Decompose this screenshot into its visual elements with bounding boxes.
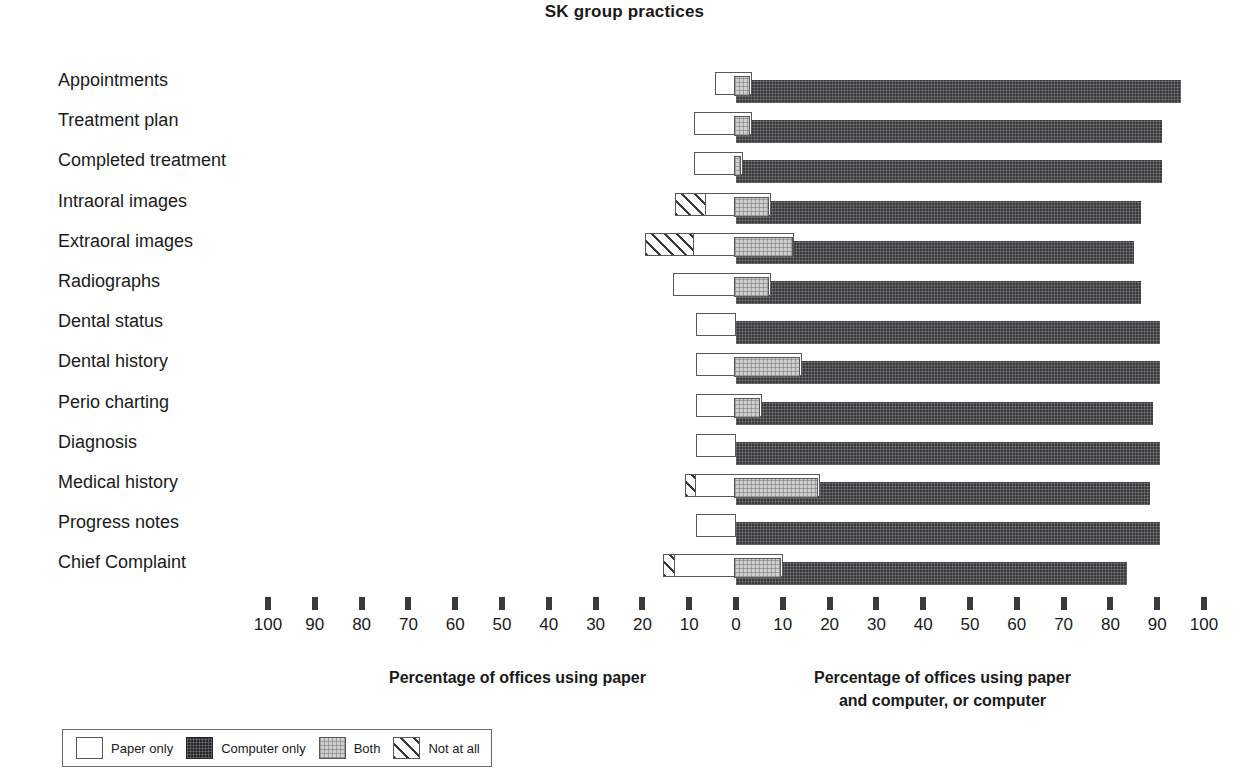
axis-tick [359, 597, 365, 610]
axis-tick-label: 20 [807, 615, 853, 635]
right-axis-caption-line2: and computer, or computer [770, 689, 1115, 712]
bar-computer-only [736, 120, 1162, 143]
bar-both [734, 197, 769, 217]
legend-item-paper-only: Paper only [76, 737, 173, 759]
legend-item-computer-only: Computer only [186, 737, 306, 759]
bar-not-at-all [645, 233, 694, 256]
axis-tick [686, 597, 692, 610]
axis-tick-label: 90 [1134, 615, 1180, 635]
bar-paper-only [696, 313, 736, 336]
right-axis-caption: Percentage of offices using paper and co… [770, 666, 1115, 712]
category-label: Dental status [58, 311, 163, 332]
axis-tick [1014, 597, 1020, 610]
axis-tick-label: 80 [339, 615, 385, 635]
axis-tick-label: 40 [526, 615, 572, 635]
axis-tick-label: 60 [432, 615, 478, 635]
bar-both [734, 398, 760, 418]
axis-tick [312, 597, 318, 610]
axis-tick [1201, 597, 1207, 610]
axis-tick-label: 0 [713, 615, 759, 635]
legend-label-both: Both [354, 741, 381, 756]
axis-tick-label: 10 [666, 615, 712, 635]
bar-not-at-all [685, 474, 697, 497]
bar-both [734, 237, 793, 257]
category-label: Chief Complaint [58, 552, 186, 573]
bar-not-at-all [675, 193, 705, 216]
category-label: Treatment plan [58, 110, 178, 131]
bar-paper-only [696, 434, 736, 457]
both-swatch [319, 737, 346, 759]
axis-tick [546, 597, 552, 610]
axis-tick [405, 597, 411, 610]
axis-tick [1061, 597, 1067, 610]
left-axis-caption: Percentage of offices using paper [345, 666, 690, 689]
chart-legend: Paper only Computer only Both Not at all [62, 729, 492, 767]
bar-computer-only [736, 80, 1181, 103]
bar-computer-only [736, 321, 1160, 344]
axis-tick [733, 597, 739, 610]
legend-label-paper-only: Paper only [111, 741, 173, 756]
bar-both [734, 478, 818, 498]
axis-tick [265, 597, 271, 610]
category-label: Progress notes [58, 512, 179, 533]
bar-paper-only [696, 514, 736, 537]
bar-computer-only [736, 160, 1162, 183]
axis-tick-label: 70 [1041, 615, 1087, 635]
axis-tick [452, 597, 458, 610]
category-label: Perio charting [58, 392, 169, 413]
bar-both [734, 357, 800, 377]
bar-computer-only [736, 402, 1153, 425]
bar-computer-only [736, 522, 1160, 545]
bar-computer-only [736, 241, 1134, 264]
category-label: Appointments [58, 70, 168, 91]
category-label: Radiographs [58, 271, 160, 292]
axis-tick-label: 100 [245, 615, 291, 635]
legend-label-computer-only: Computer only [221, 741, 306, 756]
category-label: Intraoral images [58, 191, 187, 212]
axis-tick-label: 30 [853, 615, 899, 635]
axis-tick-label: 50 [479, 615, 525, 635]
category-label: Diagnosis [58, 432, 137, 453]
not-at-all-swatch [393, 737, 420, 759]
category-label: Extraoral images [58, 231, 193, 252]
axis-tick [499, 597, 505, 610]
bar-computer-only [736, 281, 1141, 304]
axis-tick-label: 60 [994, 615, 1040, 635]
axis-tick [1107, 597, 1113, 610]
bar-not-at-all [663, 554, 675, 577]
axis-tick-label: 30 [573, 615, 619, 635]
axis-tick-label: 10 [760, 615, 806, 635]
axis-tick [967, 597, 973, 610]
chart-title: SK group practices [0, 2, 1249, 22]
legend-item-not-at-all: Not at all [393, 737, 479, 759]
bar-both [734, 116, 750, 136]
chart-canvas: SK group practices AppointmentsTreatment… [0, 0, 1249, 770]
axis-tick [639, 597, 645, 610]
axis-tick [873, 597, 879, 610]
category-label: Medical history [58, 472, 178, 493]
right-axis-caption-line1: Percentage of offices using paper [770, 666, 1115, 689]
axis-tick-label: 80 [1087, 615, 1133, 635]
axis-tick [1154, 597, 1160, 610]
axis-tick [827, 597, 833, 610]
bar-both [734, 76, 750, 96]
computer-only-swatch [186, 737, 213, 759]
axis-tick-label: 20 [619, 615, 665, 635]
bar-both [734, 156, 741, 176]
axis-tick [593, 597, 599, 610]
bar-computer-only [736, 442, 1160, 465]
axis-tick-label: 40 [900, 615, 946, 635]
legend-item-both: Both [319, 737, 381, 759]
bar-computer-only [736, 562, 1127, 585]
axis-tick-label: 100 [1181, 615, 1227, 635]
axis-tick [920, 597, 926, 610]
axis-tick-label: 50 [947, 615, 993, 635]
bar-both [734, 558, 781, 578]
bar-both [734, 277, 769, 297]
paper-only-swatch [76, 737, 103, 759]
category-label: Completed treatment [58, 150, 226, 171]
axis-tick-label: 90 [292, 615, 338, 635]
axis-tick [780, 597, 786, 610]
bar-computer-only [736, 201, 1141, 224]
legend-label-not-at-all: Not at all [428, 741, 479, 756]
